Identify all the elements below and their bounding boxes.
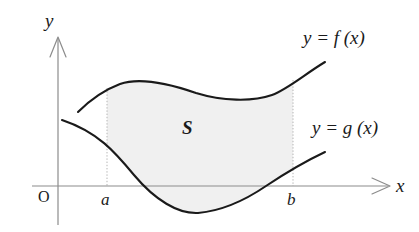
origin-label: O [38, 189, 50, 205]
bound-label-b: b [287, 191, 296, 208]
curve-label-g: y = g (x) [312, 118, 378, 137]
bound-label-a: a [101, 191, 110, 208]
curve-label-f: y = f (x) [303, 28, 365, 47]
region-label-s: S [182, 118, 193, 137]
figure-canvas: y x O a b S y = f (x) y = g (x) [0, 0, 419, 232]
y-axis-label: y [45, 11, 53, 30]
x-axis-label: x [396, 176, 404, 195]
